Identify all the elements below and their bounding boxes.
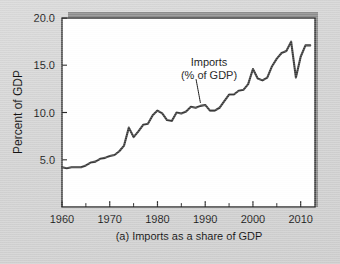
- figure-container: 5.010.015.020.0 Percent of GDP 196019701…: [0, 0, 340, 264]
- y-tick-label-5.0: 5.0: [40, 154, 55, 166]
- imports-share-of-gdp-chart: 5.010.015.020.0 Percent of GDP 196019701…: [0, 0, 340, 264]
- x-tick-label-2000: 2000: [241, 213, 265, 225]
- y-tick-label-20.0: 20.0: [34, 12, 55, 24]
- y-axis-title: Percent of GDP: [11, 70, 25, 154]
- figure-caption: (a) Imports as a share of GDP: [116, 230, 263, 242]
- x-tick-label-1970: 1970: [97, 213, 121, 225]
- x-tick-label-1980: 1980: [145, 213, 169, 225]
- x-axis-tick-labels: 196019701980199020002010: [50, 213, 313, 225]
- x-tick-label-1990: 1990: [193, 213, 217, 225]
- x-tick-label-2010: 2010: [288, 213, 312, 225]
- x-tick-label-1960: 1960: [50, 213, 74, 225]
- y-tick-label-15.0: 15.0: [34, 59, 55, 71]
- annotation-label-line1: Imports: [191, 56, 228, 68]
- y-tick-label-10.0: 10.0: [34, 107, 55, 119]
- y-axis-tick-labels: 5.010.015.020.0: [34, 12, 55, 166]
- y-axis: 5.010.015.020.0 Percent of GDP: [11, 12, 67, 166]
- plot-area-background: [62, 18, 315, 207]
- annotation-label-line2: (% of GDP): [181, 69, 237, 81]
